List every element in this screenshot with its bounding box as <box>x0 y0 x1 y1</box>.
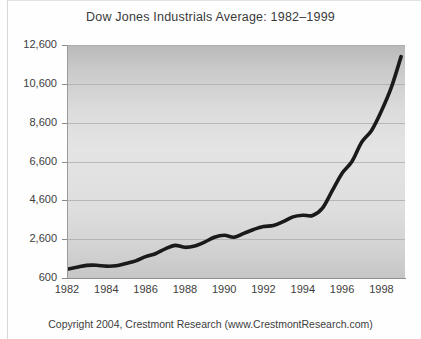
x-tick-label: 1990 <box>202 283 246 295</box>
figure-left-rule <box>7 0 8 339</box>
figure-top-rule <box>7 0 421 1</box>
y-tick-label: 4,600 <box>0 193 57 205</box>
plot-axis-left <box>67 45 68 279</box>
x-tick-label: 1998 <box>359 283 403 295</box>
x-tick-label: 1986 <box>124 283 168 295</box>
chart-title: Dow Jones Industrials Average: 1982–1999 <box>0 10 421 24</box>
plot-axis-bottom <box>67 278 406 279</box>
x-tick-label: 1996 <box>320 283 364 295</box>
y-tick-label: 10,600 <box>0 77 57 89</box>
copyright-note: Copyright 2004, Crestmont Research (www.… <box>0 318 421 330</box>
chart-figure: Dow Jones Industrials Average: 1982–1999… <box>0 0 421 339</box>
series-line-dow-jones <box>67 45 405 278</box>
x-tick-label: 1988 <box>163 283 207 295</box>
y-tick-label: 600 <box>0 271 57 283</box>
y-tick-label: 12,600 <box>0 38 57 50</box>
y-tick-label: 8,600 <box>0 116 57 128</box>
x-tick-label: 1994 <box>281 283 325 295</box>
x-tick-label: 1984 <box>84 283 128 295</box>
x-tick-label: 1992 <box>242 283 286 295</box>
plot-area <box>67 45 405 278</box>
x-tick-label: 1982 <box>45 283 89 295</box>
y-tick-label: 6,600 <box>0 155 57 167</box>
y-tick-label: 2,600 <box>0 232 57 244</box>
